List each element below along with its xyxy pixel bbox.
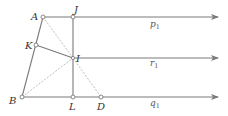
point-D-label: D — [96, 101, 105, 112]
point-I-marker — [71, 56, 74, 59]
point-B-marker — [20, 95, 24, 99]
segment-AB — [22, 17, 43, 97]
point-J-marker — [71, 15, 75, 19]
geometry-diagram: A J K I B L D p1 r1 q1 — [0, 0, 228, 116]
point-L-marker — [71, 95, 75, 99]
point-A-label: A — [30, 11, 38, 22]
point-K-label: K — [24, 40, 33, 51]
point-L-label: L — [68, 101, 76, 112]
line-q1-label: q1 — [150, 98, 160, 110]
point-J-label: J — [72, 4, 79, 15]
point-B-label: B — [8, 95, 16, 106]
point-D-marker — [99, 95, 103, 99]
point-K-marker — [34, 43, 38, 47]
segment-BI-dashed — [22, 58, 73, 97]
segment-KI — [36, 45, 73, 58]
point-A-marker — [41, 15, 45, 19]
line-r1-label: r1 — [150, 58, 158, 70]
segment-AI-dashed — [43, 17, 73, 58]
line-p1-label: p1 — [150, 19, 160, 31]
